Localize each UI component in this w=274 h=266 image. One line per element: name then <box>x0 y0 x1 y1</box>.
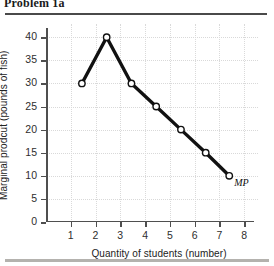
data-point-marker <box>203 150 209 156</box>
x-axis-tick <box>71 222 73 227</box>
y-axis-title: Marginal prodcut (pounds of fish) <box>0 51 9 201</box>
x-axis-tick-label: 5 <box>162 229 178 241</box>
data-point-marker <box>178 126 184 132</box>
y-axis-tick-label: 30 <box>15 76 37 88</box>
data-point-marker <box>226 173 232 179</box>
x-axis-tick <box>219 222 221 227</box>
figure-panel: Problem 1a 0510152025303540 12345678 MP … <box>0 0 274 266</box>
x-axis-tick-label: 4 <box>137 229 153 241</box>
y-axis-tick-label: 0 <box>15 215 37 227</box>
marginal-product-curve <box>46 28 254 222</box>
x-axis-tick-label: 1 <box>63 229 79 241</box>
x-axis-tick <box>96 222 98 227</box>
y-axis-tick-label: 25 <box>15 100 37 112</box>
title-divider <box>5 13 267 15</box>
series-label-mp: MP <box>234 177 248 188</box>
chart-plot-area: 0510152025303540 12345678 MP <box>46 28 254 222</box>
x-axis-tick <box>120 222 122 227</box>
x-axis-tick <box>170 222 172 227</box>
x-axis-tick-label: 6 <box>187 229 203 241</box>
x-axis-title: Quantity of students (number) <box>0 248 274 259</box>
x-axis-tick <box>195 222 197 227</box>
y-axis-tick-label: 40 <box>15 30 37 42</box>
data-point-marker <box>103 34 109 40</box>
y-axis-tick-label: 35 <box>15 53 37 65</box>
x-axis-tick <box>244 222 246 227</box>
x-axis-tick-label: 8 <box>236 229 252 241</box>
y-axis-tick-label: 5 <box>15 192 37 204</box>
footer-divider <box>5 259 269 262</box>
x-axis-tick-label: 3 <box>112 229 128 241</box>
x-axis-tick-label: 2 <box>88 229 104 241</box>
y-axis-tick-label: 20 <box>15 123 37 135</box>
data-point-marker <box>79 80 85 86</box>
x-axis-tick <box>145 222 147 227</box>
y-axis-tick-label: 15 <box>15 146 37 158</box>
y-axis-tick <box>41 222 46 224</box>
data-point-marker <box>153 103 159 109</box>
x-axis-tick-label: 7 <box>211 229 227 241</box>
y-axis-tick-label: 10 <box>15 169 37 181</box>
data-point-marker <box>128 80 134 86</box>
page-title: Problem 1a <box>4 0 65 11</box>
